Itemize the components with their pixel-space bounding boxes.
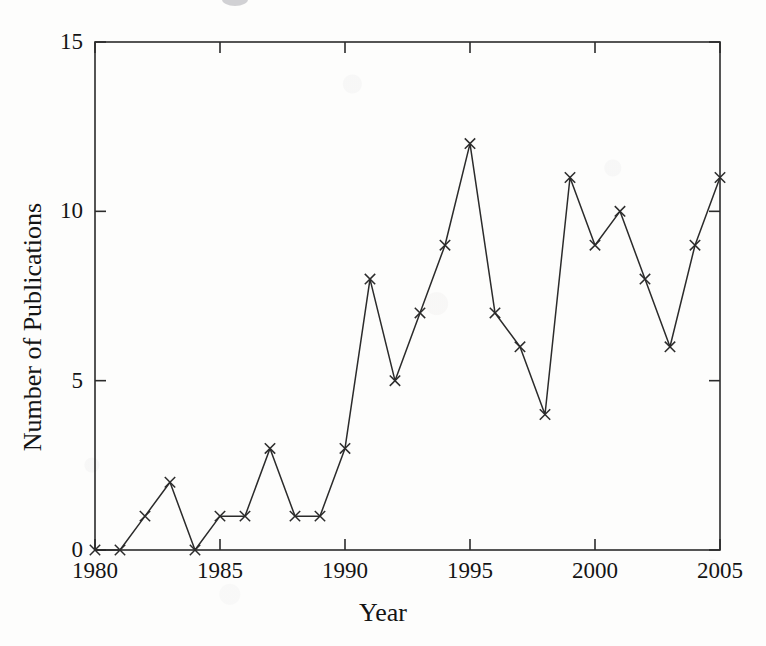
x-tick-label-2000: 2000 xyxy=(535,559,655,582)
y-tick-label-0: 0 xyxy=(0,538,83,561)
x-axis-ticks xyxy=(95,42,720,550)
x-tick-label-1980: 1980 xyxy=(35,559,155,582)
y-axis-ticks xyxy=(95,42,720,550)
figure-canvas: 0 5 10 15 1980 1985 1990 1995 2000 2005 … xyxy=(0,0,766,646)
y-axis-title: Number of Publications xyxy=(18,177,48,477)
x-tick-label-1995: 1995 xyxy=(410,559,530,582)
x-tick-label-1990: 1990 xyxy=(285,559,405,582)
x-axis-title: Year xyxy=(0,598,766,628)
axes-frame xyxy=(95,42,720,550)
y-tick-label-15: 15 xyxy=(0,30,83,53)
data-line-series xyxy=(95,144,720,550)
chart-plot-area xyxy=(0,0,766,646)
x-tick-label-2005: 2005 xyxy=(660,559,766,582)
x-tick-label-1985: 1985 xyxy=(160,559,280,582)
